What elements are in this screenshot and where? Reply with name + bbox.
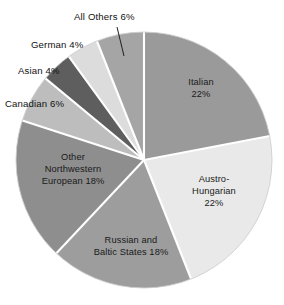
- slice-label-line: Russian and: [105, 235, 158, 245]
- slice-label-line: Italian: [188, 77, 214, 87]
- slice-label-line: Canadian 6%: [5, 98, 65, 109]
- slice-label-line: Austro-: [199, 174, 230, 184]
- slice-label-line: Northwestern: [45, 164, 102, 174]
- pie-chart: Italian22%Austro-Hungarian22%Russian and…: [0, 0, 284, 305]
- slice-label-line: German 4%: [31, 39, 84, 50]
- slice-label-line: 22%: [205, 198, 224, 208]
- slice-label-line: Other: [61, 152, 85, 162]
- slice-label: Canadian 6%: [5, 98, 65, 109]
- slice-label-line: Hungarian: [192, 186, 236, 196]
- slice-label-line: European 18%: [42, 176, 105, 186]
- slice-label: German 4%: [31, 39, 84, 50]
- slice-label-line: All Others 6%: [74, 11, 135, 22]
- slice-label: All Others 6%: [74, 11, 135, 22]
- slice-label-line: 22%: [192, 89, 211, 99]
- slice-label-line: Baltic States 18%: [94, 247, 169, 257]
- pie-chart-canvas: Italian22%Austro-Hungarian22%Russian and…: [0, 0, 284, 305]
- slice-label: Asian 4%: [18, 65, 60, 76]
- slice-label-line: Asian 4%: [18, 65, 60, 76]
